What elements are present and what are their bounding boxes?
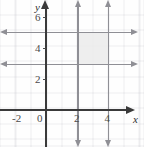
coordinate-plane-graph: y x -2 0 2 4 6 4 2 xyxy=(0,0,144,147)
horizontal-line-y3 xyxy=(7,64,132,66)
horizontal-line-y3-arrow-right xyxy=(131,61,138,67)
y-tick-label-6: 6 xyxy=(35,12,41,23)
shaded-region xyxy=(78,32,108,64)
x-tick-label-neg2: -2 xyxy=(12,113,21,124)
y-tick-mark-6 xyxy=(43,17,46,18)
horizontal-line-y3-arrow-left xyxy=(0,61,7,67)
x-axis-label: x xyxy=(133,114,138,125)
x-tick-label-4: 4 xyxy=(105,113,111,124)
horizontal-line-y5 xyxy=(7,32,132,34)
y-tick-mark-2 xyxy=(43,79,46,80)
y-tick-mark-4 xyxy=(43,48,46,49)
horizontal-line-y5-arrow-left xyxy=(0,29,7,35)
y-axis xyxy=(45,8,47,147)
horizontal-line-y5-arrow-right xyxy=(131,29,138,35)
y-tick-label-2: 2 xyxy=(35,74,41,85)
vertical-line-x4-arrow-down xyxy=(105,140,111,147)
vertical-line-x2-arrow-up xyxy=(75,0,81,7)
x-tick-label-0: 0 xyxy=(37,113,43,124)
x-axis xyxy=(0,109,128,111)
vertical-line-x2-arrow-down xyxy=(75,140,81,147)
x-tick-label-2: 2 xyxy=(74,113,80,124)
vertical-line-x4-arrow-up xyxy=(105,0,111,7)
y-axis-arrow xyxy=(41,0,49,9)
background-grid xyxy=(0,0,144,147)
y-tick-label-4: 4 xyxy=(35,43,41,54)
